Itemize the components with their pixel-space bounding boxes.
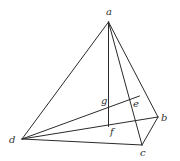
- label-point-d: d: [9, 134, 15, 145]
- label-point-a: a: [106, 6, 112, 17]
- edge-ad: [22, 22, 109, 139]
- label-point-b: b: [161, 112, 167, 123]
- label-point-e: e: [133, 98, 139, 109]
- tetrahedron-diagram: abcdefg: [0, 0, 180, 161]
- edge-dc: [22, 139, 142, 145]
- edge-cb: [142, 117, 158, 145]
- segment-d-through-g-e: [22, 96, 140, 139]
- label-point-g: g: [101, 95, 107, 106]
- edges: [22, 22, 158, 145]
- label-point-f: f: [109, 126, 116, 137]
- label-point-c: c: [140, 147, 146, 158]
